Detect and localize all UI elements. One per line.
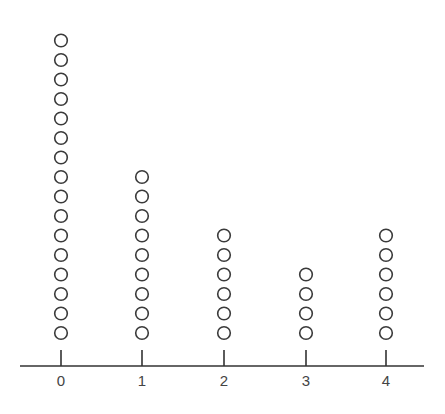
dot-column-4: [380, 229, 393, 339]
dot-marker: [136, 210, 149, 223]
x-axis-ticks: [61, 350, 386, 366]
dot-marker: [136, 249, 149, 262]
dot-marker: [55, 288, 68, 301]
dot-marker: [55, 229, 68, 242]
dot-marker: [55, 132, 68, 145]
dot-marker: [55, 73, 68, 86]
dot-marker: [55, 171, 68, 184]
x-tick-label: 3: [302, 372, 310, 389]
dot-column-0: [55, 34, 68, 339]
dot-column-2: [218, 229, 231, 339]
dot-marker: [55, 112, 68, 125]
dot-marker: [218, 249, 231, 262]
x-axis-tick-labels: 01234: [57, 372, 390, 389]
dot-marker: [218, 327, 231, 340]
dot-marker: [55, 268, 68, 281]
dot-marker: [136, 268, 149, 281]
dot-marker: [136, 190, 149, 203]
dot-marker: [300, 288, 313, 301]
dot-marker: [55, 93, 68, 106]
dot-marker: [380, 288, 393, 301]
dot-marker: [55, 307, 68, 320]
x-tick-label: 2: [220, 372, 228, 389]
dot-marker: [55, 34, 68, 47]
dot-marker: [136, 229, 149, 242]
dot-marker: [218, 307, 231, 320]
dot-marker: [380, 229, 393, 242]
dot-marker: [380, 327, 393, 340]
dot-marker: [55, 249, 68, 262]
dot-marker: [218, 288, 231, 301]
dot-plot-chart: 01234: [0, 0, 445, 414]
dot-columns: [55, 34, 393, 339]
dot-column-3: [300, 268, 313, 339]
dot-marker: [136, 288, 149, 301]
dot-marker: [300, 307, 313, 320]
dot-marker: [136, 307, 149, 320]
dot-marker: [218, 229, 231, 242]
dot-marker: [380, 249, 393, 262]
x-tick-label: 1: [138, 372, 146, 389]
x-tick-label: 4: [382, 372, 390, 389]
dot-marker: [55, 151, 68, 164]
dot-marker: [380, 307, 393, 320]
dot-marker: [55, 54, 68, 67]
dot-column-1: [136, 171, 149, 340]
dot-marker: [218, 268, 231, 281]
dot-marker: [300, 327, 313, 340]
dot-marker: [136, 327, 149, 340]
dot-marker: [55, 327, 68, 340]
x-tick-label: 0: [57, 372, 65, 389]
dot-marker: [55, 190, 68, 203]
dot-marker: [136, 171, 149, 184]
dot-marker: [300, 268, 313, 281]
dot-marker: [55, 210, 68, 223]
dot-marker: [380, 268, 393, 281]
